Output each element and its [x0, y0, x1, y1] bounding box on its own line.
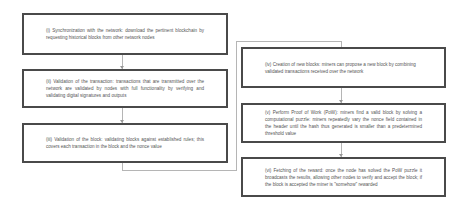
step-vi-box: (vi) Fetching of the reward: once the no…: [241, 157, 446, 197]
step-i-text: (i) Synchronization with the network: do…: [46, 27, 204, 41]
connector-bottom-horizontal: [122, 170, 237, 171]
step-iv-text: (iv) Creation of new blocks: miners can …: [265, 61, 422, 75]
step-ii-text: (ii) Validation of the transaction: tran…: [46, 78, 204, 99]
step-vi-text: (vi) Fetching of the reward: once the no…: [265, 167, 422, 188]
step-iv-box: (iv) Creation of new blocks: miners can …: [241, 47, 446, 88]
step-i-box: (i) Synchronization with the network: do…: [22, 13, 228, 55]
step-ii-box: (ii) Validation of the transaction: tran…: [22, 69, 228, 108]
connector-vertical-middle: [236, 41, 237, 171]
connector-top-horizontal: [236, 41, 342, 42]
step-v-box: (v) Perform Proof of Work (PoW): miners …: [241, 103, 446, 143]
step-iii-box: (iii) Validation of the block: validatin…: [22, 123, 228, 163]
step-iii-text: (iii) Validation of the block: validatin…: [46, 136, 204, 150]
step-v-text: (v) Perform Proof of Work (PoW): miners …: [265, 109, 422, 137]
